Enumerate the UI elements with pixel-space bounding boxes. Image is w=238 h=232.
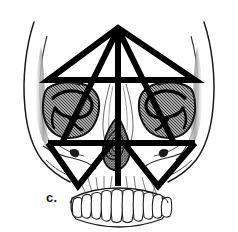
skull-diagram-figure: c. xyxy=(0,0,238,232)
tooth xyxy=(101,191,111,222)
tooth xyxy=(133,191,143,222)
tooth xyxy=(91,193,101,220)
figure-label: c. xyxy=(46,191,57,204)
tooth xyxy=(81,195,91,219)
skull-diagram-svg xyxy=(0,0,238,232)
tooth xyxy=(122,190,133,223)
maxillary-dental-arch xyxy=(70,188,172,227)
tooth xyxy=(111,190,122,223)
